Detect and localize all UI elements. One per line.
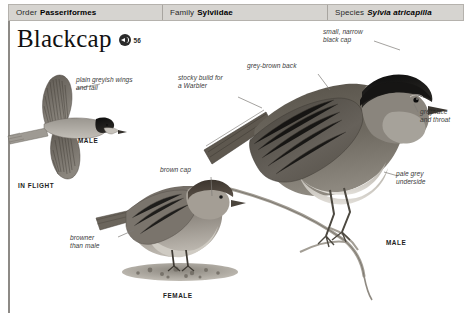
annotation-plain-wings: plain greyish wings and tail — [76, 76, 133, 93]
annotation-brown-cap: brown cap — [160, 166, 191, 174]
caption-in-flight: IN FLIGHT — [18, 182, 54, 189]
caption-flight-male: MALE — [78, 137, 98, 144]
bird-female — [96, 180, 246, 281]
annotation-stocky-build: stocky build for a Warbler — [178, 74, 223, 91]
field-guide-page: Order Passeriformes Family Sylviidae Spe… — [0, 0, 469, 313]
annotation-grey-face: grey face and throat — [420, 108, 450, 125]
leader-grey-brown-back — [318, 74, 330, 90]
bird-perched-male — [204, 74, 448, 300]
leader-small-narrow-cap — [374, 41, 400, 50]
annotation-pale-underside: pale grey underside — [396, 170, 425, 187]
annotation-small-narrow-cap: small, narrow black cap — [323, 28, 363, 45]
illustration-layer — [0, 0, 469, 313]
annotation-grey-brown-back: grey-brown back — [247, 62, 297, 70]
leader-stocky-build — [238, 97, 262, 108]
caption-perched-male: MALE — [386, 239, 406, 246]
annotation-browner-than-male: browner than male — [70, 234, 99, 251]
caption-female: FEMALE — [163, 292, 193, 299]
